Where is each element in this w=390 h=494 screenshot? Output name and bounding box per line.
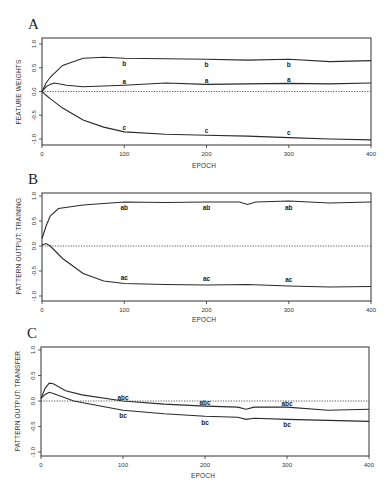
series-label-b: b	[122, 60, 126, 67]
panel-a-letter: A	[28, 16, 39, 32]
series-label-abc: abc	[117, 394, 129, 401]
y-tick-label: 0.5	[30, 371, 36, 380]
series-label-b: b	[205, 61, 209, 68]
series-label-abc: abc	[199, 399, 211, 406]
series-label-ab: ab	[120, 204, 128, 211]
series-label-ac: ac	[285, 276, 293, 283]
y-tick-label: 0.5	[31, 63, 37, 72]
panel-a-xlabel: EPOCH	[192, 162, 216, 169]
x-tick-label: 300	[282, 462, 293, 468]
series-label-c: c	[205, 127, 209, 134]
series-label-abc: abc	[281, 400, 293, 407]
x-tick-label: 400	[364, 462, 375, 468]
x-tick-label: 0	[40, 307, 44, 313]
panel-a-ylabel: FEATURE WEIGHTS	[15, 59, 22, 124]
series-label-ab: ab	[203, 204, 211, 211]
y-tick-label: 0.0	[31, 241, 37, 250]
series-label-ac: ac	[121, 274, 129, 281]
y-tick-label: 1.0	[30, 345, 36, 354]
panel-c-letter: C	[27, 325, 37, 341]
x-tick-label: 100	[119, 307, 130, 313]
panel-b-plot: 1.00.50.0-0.5-1.00100200300400abababacac…	[31, 191, 377, 313]
series-label-bc: bc	[119, 412, 127, 419]
series-label-ac: ac	[203, 275, 211, 282]
x-tick-label: 0	[40, 151, 44, 157]
y-tick-label: 0.0	[31, 87, 37, 96]
y-tick-label: 1.0	[31, 191, 37, 200]
series-label-bc: bc	[201, 419, 209, 426]
panel-b: B PATTERN OUTPUT: TRAINING EPOCH 1.00.50…	[15, 171, 377, 323]
panel-c-ylabel: PATTERN OUTPUT: TRANSFER	[14, 351, 21, 452]
series-label-ab: ab	[285, 204, 293, 211]
y-tick-label: 0.5	[31, 216, 37, 225]
panel-a: A FEATURE WEIGHTS EPOCH 1.00.50.0-0.5-1.…	[15, 16, 377, 169]
panel-a-plot: 1.00.50.0-0.5-1.00100200300400bbbaaaccc	[31, 38, 377, 157]
x-tick-label: 300	[284, 307, 295, 313]
y-tick-label: 0.0	[30, 396, 36, 405]
x-tick-label: 400	[366, 307, 377, 313]
panel-b-letter: B	[28, 171, 38, 187]
series-abc-line	[41, 383, 369, 410]
y-tick-label: -1.0	[31, 290, 37, 301]
figure: A FEATURE WEIGHTS EPOCH 1.00.50.0-0.5-1.…	[0, 0, 390, 494]
x-tick-label: 100	[119, 151, 130, 157]
x-tick-label: 300	[284, 151, 295, 157]
x-tick-label: 0	[39, 462, 43, 468]
series-a-line	[42, 83, 371, 92]
y-tick-label: 1.0	[31, 39, 37, 48]
series-label-a: a	[205, 77, 209, 84]
y-tick-label: -1.0	[30, 446, 36, 457]
panel-c: C PATTERN OUTPUT: TRANSFER EPOCH 1.00.50…	[14, 325, 375, 479]
panel-b-xlabel: EPOCH	[192, 316, 216, 323]
y-tick-label: -1.0	[31, 133, 37, 144]
series-label-a: a	[287, 76, 291, 83]
y-tick-label: -0.5	[31, 109, 37, 120]
panel-c-xlabel: EPOCH	[191, 472, 215, 479]
x-tick-label: 100	[118, 462, 129, 468]
y-tick-label: -0.5	[31, 265, 37, 276]
x-tick-label: 200	[200, 462, 211, 468]
x-tick-label: 200	[201, 307, 212, 313]
x-tick-label: 200	[201, 151, 212, 157]
series-label-bc: bc	[283, 421, 291, 428]
y-tick-label: -0.5	[30, 421, 36, 432]
series-label-a: a	[122, 78, 126, 85]
panel-c-plot: 1.00.50.0-0.5-1.00100200300400abcabcabcb…	[30, 345, 375, 468]
panel-b-ylabel: PATTERN OUTPUT: TRAINING	[15, 198, 22, 295]
series-label-c: c	[287, 129, 291, 136]
series-label-b: b	[287, 61, 291, 68]
x-tick-label: 400	[366, 151, 377, 157]
series-label-c: c	[122, 124, 126, 131]
